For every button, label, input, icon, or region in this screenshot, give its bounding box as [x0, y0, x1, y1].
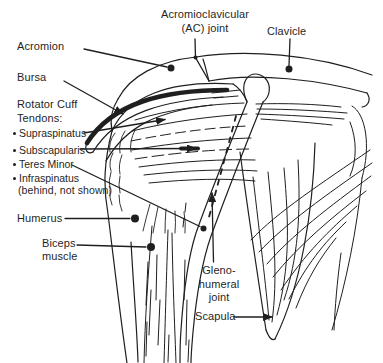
- list-item-subscapularis: Subscapularis: [13, 144, 85, 156]
- label-rotator-cuff-tendons: Rotator Cuff Tendons:: [17, 97, 77, 125]
- scapula-outline: [240, 143, 315, 340]
- label-ac-joint: Acromioclavicular (AC) joint: [138, 7, 272, 35]
- label-biceps-line2: muscle: [42, 250, 77, 263]
- marker-dot-teres-minor: [201, 226, 207, 232]
- label-clavicle: Clavicle: [267, 25, 306, 38]
- shoulder-anatomy-diagram: Acromioclavicular (AC) joint Clavicle Ac…: [0, 0, 383, 363]
- label-rotator-cuff-line1: Rotator Cuff: [17, 97, 77, 111]
- bullet-icon: [13, 177, 16, 180]
- label-acromion: Acromion: [17, 40, 64, 53]
- bullet-icon: [13, 132, 16, 135]
- leader-teres-minor: [72, 165, 207, 232]
- marker-dot-clavicle: [286, 66, 293, 73]
- rotator-cuff-fibers: [131, 90, 257, 183]
- bullet-icon: [13, 163, 16, 166]
- tendon-label: Infraspinatus: [19, 172, 79, 184]
- tendon-label: Teres Minor: [19, 158, 74, 170]
- tendon-label: Subscapularis: [19, 144, 85, 156]
- infraspinatus-fibers: [251, 150, 372, 330]
- marker-dot-acromion: [168, 65, 175, 72]
- label-biceps-muscle: Biceps muscle: [42, 237, 77, 263]
- label-ac-joint-line1: Acromioclavicular: [138, 7, 272, 21]
- list-item-supraspinatus: Supraspinatus: [13, 127, 86, 139]
- label-glenohumeral-line2: humeral: [196, 278, 242, 292]
- label-bursa: Bursa: [17, 71, 46, 84]
- leader-biceps-muscle: [77, 243, 155, 251]
- leader-subscapularis: [80, 149, 196, 150]
- label-biceps-line1: Biceps: [42, 237, 77, 250]
- humeral-head-texture: [109, 130, 185, 233]
- supraspinatus-fibers: [256, 104, 367, 178]
- leader-humerus: [65, 215, 139, 223]
- list-item-infraspinatus: Infraspinatus: [13, 172, 79, 184]
- list-item-teres-minor: Teres Minor: [13, 158, 74, 170]
- label-scapula: Scapula: [195, 310, 235, 323]
- label-glenohumeral-line3: joint: [196, 291, 242, 305]
- label-ac-joint-line2: (AC) joint: [138, 21, 272, 35]
- leader-acromion: [84, 49, 175, 72]
- marker-dot-humerus: [131, 215, 139, 223]
- marker-dot-ac-joint: [194, 56, 198, 60]
- label-glenohumeral-joint: Gleno- humeral joint: [196, 264, 242, 305]
- label-infraspinatus-note: (behind, not shown): [18, 184, 112, 197]
- marker-dot-biceps: [147, 243, 155, 251]
- label-rotator-cuff-line2: Tendons:: [17, 111, 77, 125]
- leader-ac-joint: [194, 39, 210, 81]
- label-humerus: Humerus: [17, 212, 62, 225]
- tendon-label: Supraspinatus: [19, 127, 86, 139]
- bullet-icon: [13, 149, 16, 152]
- label-glenohumeral-line1: Gleno-: [196, 264, 242, 278]
